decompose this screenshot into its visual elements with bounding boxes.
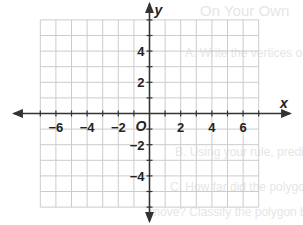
coordinate-plane: −6−4−224642−2−4 x y O xyxy=(0,0,303,225)
x-tick-label: 4 xyxy=(208,120,216,135)
y-tick-label: 4 xyxy=(137,44,145,59)
y-axis-label: y xyxy=(154,2,164,18)
y-tick-label: −2 xyxy=(130,138,145,153)
x-tick-label: −6 xyxy=(48,120,63,135)
x-tick-label: 6 xyxy=(239,120,246,135)
y-tick-label: 2 xyxy=(137,75,144,90)
x-tick-label: −4 xyxy=(80,120,96,135)
y-tick-label: −4 xyxy=(130,169,146,184)
origin-label: O xyxy=(136,118,147,134)
x-tick-label: −2 xyxy=(111,120,126,135)
x-tick-label: 2 xyxy=(177,120,184,135)
x-axis-label: x xyxy=(279,95,289,111)
